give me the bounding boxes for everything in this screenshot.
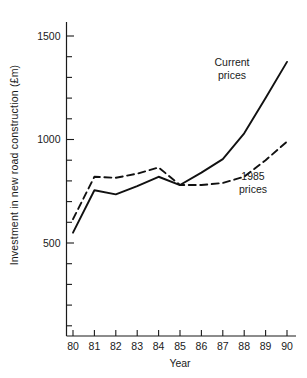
annotation-line: Current [214,56,249,68]
annotation-line: prices [239,183,267,195]
x-axis-tick-label: 80 [67,340,79,352]
annotation-1985-prices: 1985prices [239,170,267,195]
annotation-current-prices: Currentprices [214,56,249,81]
y-axis-tick-label: 1500 [37,30,61,42]
x-axis-tick-label: 84 [153,340,165,352]
x-axis-tick-label: 90 [281,340,293,352]
y-axis-tick-label: 500 [43,237,61,249]
x-axis-title: Year [169,357,191,369]
x-axis-tick-label: 83 [131,340,143,352]
chart-figure: Investment in new road construction (£m)… [0,0,307,378]
annotation-line: prices [218,69,246,81]
x-axis-tick-label: 86 [196,340,208,352]
y-axis-tick-label: 1000 [37,133,61,145]
x-axis-tick-label: 82 [110,340,122,352]
x-axis-tick-label: 85 [174,340,186,352]
x-axis-tick-label: 81 [89,340,101,352]
chart-plot-area: 500100015008081828384858687888990YearCur… [0,0,307,378]
annotation-line: 1985 [241,170,265,182]
x-axis-tick-label: 87 [217,340,229,352]
series-line-solid [73,62,287,233]
x-axis-tick-label: 89 [260,340,272,352]
x-axis-tick-label: 88 [238,340,250,352]
